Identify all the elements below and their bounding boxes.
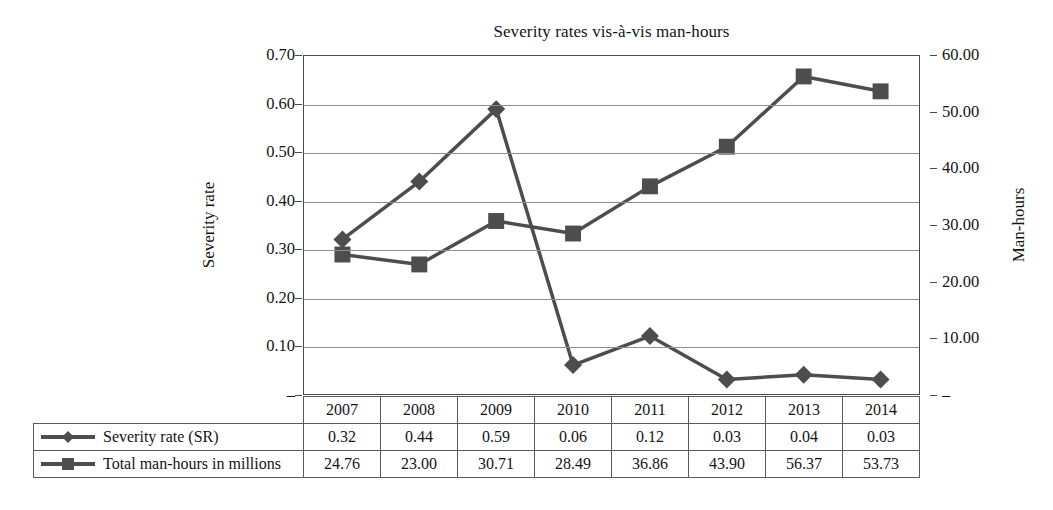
data-point-diamond[interactable] [795,366,813,384]
left-axis-tick-label: 0.60 [229,94,295,114]
gridline [304,299,919,300]
left-axis-tick-label: 0.70 [229,45,295,65]
data-point-diamond[interactable] [564,356,582,374]
left-axis-tick-label: 0.30 [229,239,295,259]
data-point-square[interactable] [411,256,427,272]
table-cell-man-hours: 36.86 [612,451,689,478]
left-axis-tick-label: 0.20 [229,288,295,308]
right-axis-tick-label: 30.00 [942,215,1012,235]
table-cell-man-hours: 28.49 [535,451,612,478]
plot-area [303,55,920,395]
gridline [304,105,919,106]
table-cell-severity-rate: 0.06 [535,424,612,451]
data-point-square[interactable] [334,247,350,263]
table-header-year: 2014 [843,397,920,424]
left-axis-tick-labels: 0.700.600.500.400.300.200.10– [225,55,295,395]
table-header-year: 2013 [766,397,843,424]
right-axis-tick-label: 10.00 [942,328,1012,348]
left-axis-tickmark [295,298,302,299]
right-axis-title: Man-hours [1006,55,1032,395]
left-axis-tick-label: 0.50 [229,142,295,162]
data-point-diamond[interactable] [641,327,659,345]
gridline [304,347,919,348]
right-axis-tick-label: 50.00 [942,102,1012,122]
table-header-year: 2011 [612,397,689,424]
table-cell-severity-rate: 0.44 [381,424,458,451]
table-cell-severity-rate: 0.03 [843,424,920,451]
right-axis-tickmark [930,168,937,169]
left-axis-tickmark [295,152,302,153]
table-header-year: 2007 [304,397,381,424]
data-point-square[interactable] [565,226,581,242]
table-cell-severity-rate: 0.59 [458,424,535,451]
table-cell-man-hours: 53.73 [843,451,920,478]
left-axis-tick-label: 0.10 [229,336,295,356]
legend-item-total-man-hours[interactable]: Total man-hours in millions [34,451,304,478]
table-cell-severity-rate: 0.32 [304,424,381,451]
data-point-square[interactable] [796,68,812,84]
data-point-square[interactable] [488,213,504,229]
table-cell-man-hours: 24.76 [304,451,381,478]
right-axis-tickmark [930,395,937,396]
data-point-diamond[interactable] [718,371,736,389]
left-axis-tick-label: 0.40 [229,191,295,211]
right-axis-tickmark [930,225,937,226]
chart-figure: Severity rates vis-à-vis man-hours 0.700… [0,0,1053,510]
legend-label-severity-rate: Severity rate (SR) [103,428,219,446]
legend-item-severity-rate[interactable]: Severity rate (SR) [34,424,304,451]
left-axis-tickmark [295,249,302,250]
right-axis-tickmark [930,282,937,283]
table-corner-cell [34,397,304,424]
series-lines-layer [304,56,919,394]
table-cell-severity-rate: 0.12 [612,424,689,451]
legend-label-total-man-hours: Total man-hours in millions [103,455,281,473]
table-cell-severity-rate: 0.03 [689,424,766,451]
data-table: 20072008200920102011201220132014 Severit… [33,396,920,478]
data-point-square[interactable] [642,178,658,194]
right-axis-tick-label: 40.00 [942,158,1012,178]
right-axis-tick-labels: 60.0050.0040.0030.0020.0010.00– [930,55,1004,395]
table-header-year: 2009 [458,397,535,424]
table-header-year: 2010 [535,397,612,424]
square-marker-icon [40,457,96,471]
data-point-diamond[interactable] [872,371,890,389]
left-axis-tickmark [295,55,302,56]
left-axis-title-text: Severity rate [199,182,219,268]
right-axis-tickmark [930,338,937,339]
data-point-square[interactable] [873,83,889,99]
table-cell-man-hours: 30.71 [458,451,535,478]
gridline [304,202,919,203]
table-row-years: 20072008200920102011201220132014 [34,397,920,424]
table-row-severity: Severity rate (SR) 0.320.440.590.060.120… [34,424,920,451]
table-header-year: 2008 [381,397,458,424]
right-axis-tick-label: – [942,385,1012,405]
right-axis-tick-label: 20.00 [942,272,1012,292]
right-axis-tick-label: 60.00 [942,45,1012,65]
left-axis-title: Severity rate [196,55,222,395]
table-cell-man-hours: 56.37 [766,451,843,478]
left-axis-tickmark [295,346,302,347]
left-axis-tickmark [295,201,302,202]
chart-title: Severity rates vis-à-vis man-hours [303,22,920,42]
right-axis-tickmark [930,112,937,113]
table-header-year: 2012 [689,397,766,424]
table-cell-man-hours: 23.00 [381,451,458,478]
table-cell-severity-rate: 0.04 [766,424,843,451]
diamond-marker-icon [40,430,96,444]
series-line-1 [342,109,880,379]
left-axis-tickmark [295,104,302,105]
table-row-manhours: Total man-hours in millions 24.7623.0030… [34,451,920,478]
right-axis-title-text: Man-hours [1009,188,1029,263]
gridline [304,153,919,154]
right-axis-tickmark [930,55,937,56]
gridline [304,250,919,251]
table-cell-man-hours: 43.90 [689,451,766,478]
